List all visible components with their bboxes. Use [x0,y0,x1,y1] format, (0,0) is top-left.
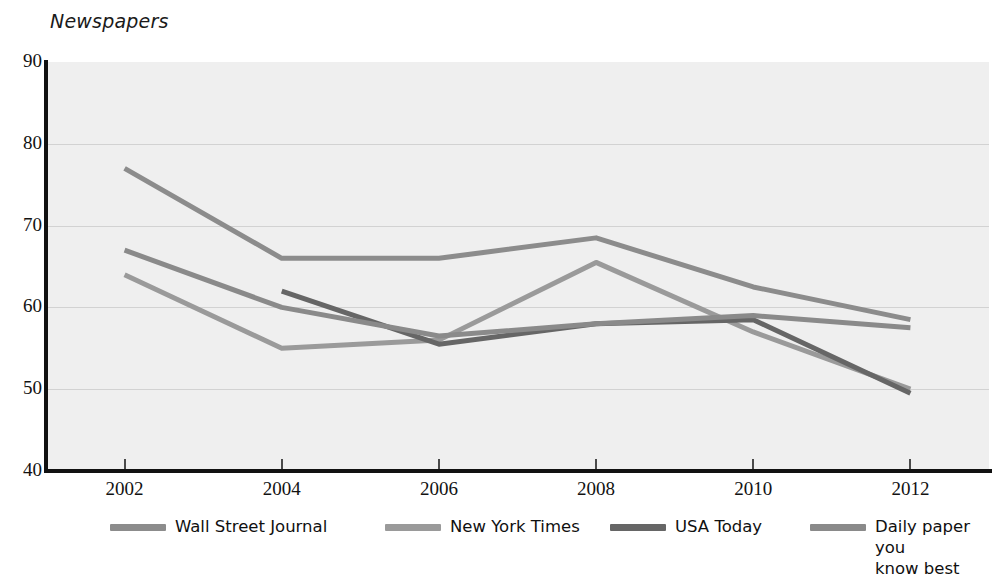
plot-area [46,62,989,471]
gridline [46,144,989,145]
legend-label: Daily paper you know best [875,516,1005,576]
gridline [46,226,989,227]
legend-swatch-icon [110,524,166,531]
y-tick-label: 70 [4,214,42,236]
legend-swatch-icon [385,524,441,531]
legend-item[interactable]: New York Times [385,516,580,537]
x-tick-mark [124,459,126,469]
gridline [46,389,989,390]
legend-label: Wall Street Journal [175,516,327,537]
chart-title: Newspapers [50,10,169,32]
legend-item[interactable]: USA Today [610,516,762,537]
x-tick-mark [438,459,440,469]
chart-legend: Wall Street JournalNew York TimesUSA Tod… [0,516,1005,576]
x-tick-label: 2002 [85,478,165,500]
legend-swatch-icon [810,524,866,531]
x-tick-mark [909,459,911,469]
x-tick-label: 2008 [556,478,636,500]
x-tick-label: 2012 [870,478,950,500]
legend-label: New York Times [450,516,580,537]
y-tick-label: 40 [4,459,42,481]
y-tick-label: 50 [4,377,42,399]
legend-item[interactable]: Wall Street Journal [110,516,327,537]
y-tick-label: 60 [4,295,42,317]
x-tick-label: 2004 [242,478,322,500]
y-axis-line [44,60,48,473]
x-tick-label: 2010 [713,478,793,500]
x-axis-line [44,469,992,473]
x-tick-mark [752,459,754,469]
x-tick-mark [595,459,597,469]
x-tick-label: 2006 [399,478,479,500]
gridline [46,307,989,308]
legend-swatch-icon [610,524,666,531]
legend-label: USA Today [675,516,762,537]
legend-item[interactable]: Daily paper you know best [810,516,1005,576]
y-tick-label: 80 [4,132,42,154]
x-tick-mark [281,459,283,469]
newspapers-line-chart: Newspapers 405060708090 2002200420062008… [0,0,1005,576]
y-tick-label: 90 [4,50,42,72]
